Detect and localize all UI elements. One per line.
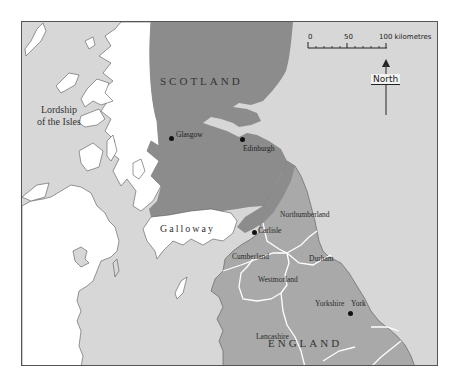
county-label-durham: Durham <box>309 254 334 263</box>
island-small-2 <box>85 37 95 49</box>
region-label-galloway: Galloway <box>160 223 215 234</box>
island-islay <box>79 143 103 171</box>
county-label-westmorland: Westmorland <box>258 275 298 284</box>
county-label-yorkshire: Yorkshire <box>315 299 344 308</box>
scotland-territory <box>147 22 293 221</box>
county-label-cumberland: Cumberland <box>232 252 269 261</box>
region-label-scotland: SCOTLAND <box>160 75 243 87</box>
scale-bar-ruler <box>307 42 387 50</box>
scale-tick-0: 0 <box>308 33 312 41</box>
caption-cropped <box>80 378 400 388</box>
scale-tick-100: 100 kilometres <box>379 33 431 41</box>
city-dot-icon <box>240 137 245 142</box>
island-small-1 <box>56 73 79 93</box>
city-dot-icon <box>348 311 353 316</box>
city-dot-icon <box>252 230 257 235</box>
city-label: Glasgow <box>176 130 203 139</box>
ireland-land <box>22 185 119 366</box>
island-man <box>175 277 187 299</box>
north-label: North <box>371 74 400 85</box>
county-label-lancashire: Lancashire <box>256 332 289 341</box>
lordship-line-2: of the Isles <box>37 116 81 128</box>
map-frame: SCOTLAND ENGLAND Galloway Lordship of th… <box>21 21 438 366</box>
county-label-northumberland: Northumberland <box>280 210 330 219</box>
strangford-lough <box>113 259 119 277</box>
city-label: Carlisle <box>258 226 281 235</box>
city-label: Edinburgh <box>243 144 275 153</box>
scale-tick-50: 50 <box>344 33 353 41</box>
lordship-line-1: Lordship <box>37 104 81 116</box>
north-arrow-icon <box>381 59 391 115</box>
region-label-lordship-of-the-isles: Lordship of the Isles <box>37 104 81 128</box>
city-dot-icon <box>169 136 174 141</box>
galloway-territory <box>143 209 237 259</box>
island-lewis <box>25 23 46 56</box>
island-mull <box>79 109 105 127</box>
city-label: York <box>351 299 366 308</box>
